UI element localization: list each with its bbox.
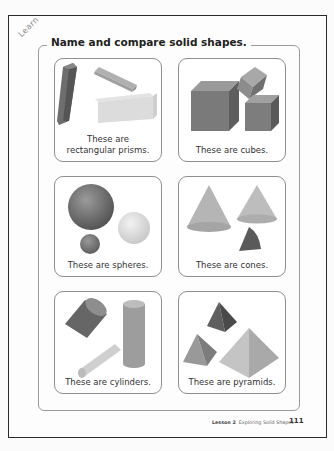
card-caption: These are spheres. [55,260,161,271]
card-cubes: These are cubes. [178,58,286,162]
card-spheres: These are spheres. [54,176,162,277]
card-pyramids: These are pyramids. [178,291,286,394]
card-caption: These are cylinders. [55,377,161,388]
card-caption: These are cones. [179,260,285,271]
card-cones: These are cones. [178,176,286,277]
card-caption: These are pyramids. [179,377,285,388]
card-cylinders: These are cylinders. [54,291,162,394]
card-caption: These are rectangular prisms. [55,134,161,156]
page-number: 111 [289,417,304,425]
footer-lesson: Lesson 2 Exploring Solid Shapes [212,420,294,425]
section-title: Name and compare solid shapes. [47,36,251,48]
card-rectangular-prisms: These are rectangular prisms. [54,58,162,162]
lesson-title: Exploring Solid Shapes [239,420,294,425]
card-caption: These are cubes. [179,145,285,156]
lesson-number: Lesson 2 [212,420,236,425]
